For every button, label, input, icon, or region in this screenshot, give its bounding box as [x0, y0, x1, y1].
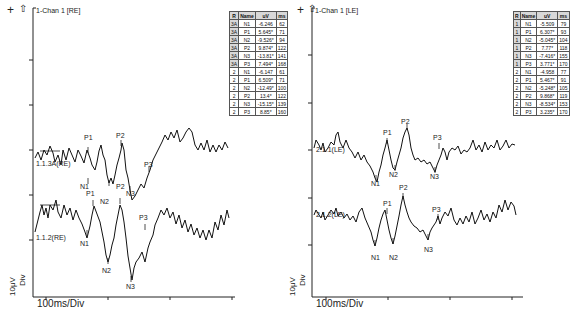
- table-cell: 170: [558, 60, 569, 68]
- table-row: 2N1-6.14761: [230, 68, 288, 76]
- peak-label-n3: N3: [126, 190, 135, 197]
- peak-label-n3: N3: [430, 173, 439, 180]
- table-row: 2N3-8.534*153: [514, 100, 570, 108]
- table-cell: P3: [239, 60, 256, 68]
- peak-label-p3: P3: [432, 206, 441, 213]
- table-cell: 141: [276, 52, 287, 60]
- table-cell: -5.045*: [537, 36, 558, 44]
- table-cell: 119: [558, 92, 569, 100]
- table-header: R Name uV ms: [514, 12, 570, 20]
- peak-label-p2: P2: [399, 184, 408, 191]
- table-row: 3AP15.645*71: [230, 28, 288, 36]
- table-cell: 8.85*: [255, 108, 276, 116]
- table-cell: 1: [514, 20, 521, 28]
- table-header-cell: Name: [239, 12, 256, 20]
- table-cell: 155: [558, 52, 569, 60]
- table-cell: 9.874*: [255, 44, 276, 52]
- table-cell: -5.248*: [537, 84, 558, 92]
- table-cell: 1: [514, 52, 521, 60]
- table-row: 2N2-5.248*105: [514, 84, 570, 92]
- table-cell: -4.958: [537, 68, 558, 76]
- table-cell: 2: [230, 68, 239, 76]
- peak-label-n2: N2: [100, 198, 109, 205]
- table-cell: N3: [239, 100, 256, 108]
- left-panel-re: + ⇧ 1-Chan 1 [RE]: [0, 0, 290, 310]
- table-cell: 1: [514, 28, 521, 36]
- table-cell: P2: [239, 92, 256, 100]
- table-cell: N3: [520, 52, 537, 60]
- trace-label: 2.1.1(LE): [316, 146, 345, 153]
- table-row: 2P16.509*71: [230, 76, 288, 84]
- table-cell: 2: [230, 92, 239, 100]
- table-row: 1P27.77*118: [514, 44, 570, 52]
- table-cell: N1: [520, 20, 537, 28]
- table-row: 3AN2-9.526*94: [230, 36, 288, 44]
- table-cell: N2: [239, 36, 256, 44]
- table-cell: 3A: [230, 60, 239, 68]
- table-cell: 118: [558, 44, 569, 52]
- table-cell: 104: [558, 36, 569, 44]
- table-cell: P2: [239, 44, 256, 52]
- table-header: R Name uV ms: [230, 12, 288, 20]
- table-cell: P2: [520, 44, 537, 52]
- peak-label-p3: P3: [144, 161, 153, 168]
- peak-label-n3: N3: [126, 283, 135, 290]
- table-cell: 91: [558, 76, 569, 84]
- table-cell: 2: [514, 108, 521, 116]
- peak-label-n1: N1: [80, 240, 89, 247]
- table-header-cell: uV: [537, 12, 558, 20]
- trace-label: 1.1.2(RE): [36, 234, 66, 241]
- table-cell: -6.246: [255, 20, 276, 28]
- y-axis-label-div: Div: [298, 274, 307, 286]
- table-row: 2P29.868*119: [514, 92, 570, 100]
- table-header-cell: Name: [520, 12, 537, 20]
- table-cell: 62: [276, 20, 287, 28]
- peak-label-n2: N2: [102, 267, 111, 274]
- trace-2-1-1: [314, 128, 515, 182]
- table-cell: 3A: [230, 20, 239, 28]
- table-cell: 71: [276, 28, 287, 36]
- table-row: 3AN1-6.24662: [230, 20, 288, 28]
- table-cell: 94: [276, 36, 287, 44]
- trace-label: 1.1.3A(RE): [36, 160, 71, 167]
- peak-label-n2: N2: [389, 171, 398, 178]
- table-cell: -12.49*: [255, 84, 276, 92]
- table-cell: N1: [239, 20, 256, 28]
- table-cell: 7.494*: [255, 60, 276, 68]
- peak-label-p1: P1: [383, 200, 392, 207]
- table-cell: -13.81*: [255, 52, 276, 60]
- peak-label-n1: N1: [80, 183, 89, 190]
- table-row: 1N3-7.416*155: [514, 52, 570, 60]
- table-row: 1P16.307*93: [514, 28, 570, 36]
- table-cell: P3: [520, 108, 537, 116]
- table-cell: N1: [520, 68, 537, 76]
- table-header-cell: ms: [276, 12, 287, 20]
- table-cell: 100: [276, 84, 287, 92]
- table-cell: 2: [514, 100, 521, 108]
- table-cell: 1: [514, 60, 521, 68]
- table-cell: 2: [230, 108, 239, 116]
- table-cell: 2: [514, 84, 521, 92]
- table-row: 1N1-5.50979: [514, 20, 570, 28]
- table-row: 2P38.85*160: [230, 108, 288, 116]
- table-cell: 93: [558, 28, 569, 36]
- table-cell: 3A: [230, 44, 239, 52]
- table-cell: 3A: [230, 28, 239, 36]
- right-panel-le: + ⇧ 1-Chan 1 [LE]: [288, 0, 573, 310]
- trace-label: 2.1.2(LE): [316, 211, 345, 218]
- table-cell: 79: [558, 20, 569, 28]
- table-cell: P3: [239, 108, 256, 116]
- table-cell: 3.235*: [537, 108, 558, 116]
- table-cell: 3A: [230, 52, 239, 60]
- table-cell: -15.15*: [255, 100, 276, 108]
- table-cell: P2: [520, 92, 537, 100]
- peak-label-p1: P1: [86, 190, 95, 197]
- table-cell: P1: [520, 28, 537, 36]
- x-axis-label: 100ms/Div: [37, 298, 84, 309]
- peak-label-p2: P2: [401, 118, 410, 125]
- peak-label-p3: P3: [139, 214, 148, 221]
- x-axis-label: 100ms/Div: [316, 298, 363, 309]
- table-cell: P1: [239, 28, 256, 36]
- table-cell: N3: [520, 100, 537, 108]
- table-cell: P1: [520, 76, 537, 84]
